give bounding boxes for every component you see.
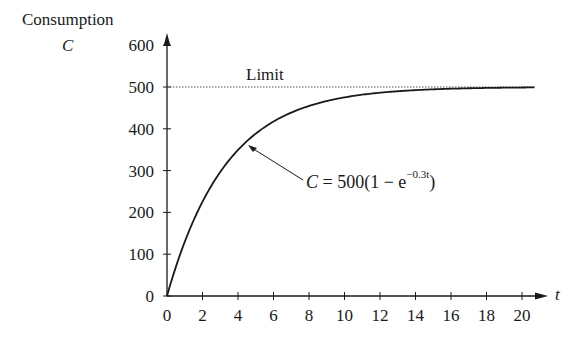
x-tick-label: 0 [163,306,172,325]
x-tick-label: 10 [336,306,353,325]
x-tick-label: 20 [514,306,531,325]
equation-close: ) [429,172,435,192]
y-axis-title: Consumption [22,11,114,28]
equation-body: = 500(1 − e [318,172,406,192]
y-tick-label: 500 [129,78,155,97]
y-tick-label: 300 [129,162,155,181]
y-tick-label: 0 [146,287,155,306]
x-tick-label: 4 [234,306,243,325]
annotation-pointer [252,148,303,180]
limit-label: Limit [246,66,284,83]
x-tick-label: 18 [478,306,495,325]
x-tick-label: 2 [198,306,207,325]
chart-canvas: 010020030040050060002468101214161820 [0,0,571,344]
annotation-arrowhead-icon [248,145,257,152]
equation-exponent: −0.3t [406,168,429,180]
x-axis-symbol: t [555,286,560,303]
y-tick-label: 600 [129,36,155,55]
y-tick-label: 200 [129,203,155,222]
equation-c: C [306,172,318,192]
x-tick-label: 14 [407,306,425,325]
x-tick-label: 16 [443,306,460,325]
x-axis-arrow-icon [535,293,548,300]
y-axis-symbol: C [62,37,73,54]
y-axis-arrow-icon [164,33,171,46]
y-tick-label: 100 [129,245,155,264]
x-tick-label: 6 [269,306,278,325]
x-tick-label: 12 [372,306,389,325]
x-tick-label: 8 [305,306,314,325]
y-tick-label: 400 [129,120,155,139]
equation-annotation: C = 500(1 − e−0.3t) [306,172,435,191]
